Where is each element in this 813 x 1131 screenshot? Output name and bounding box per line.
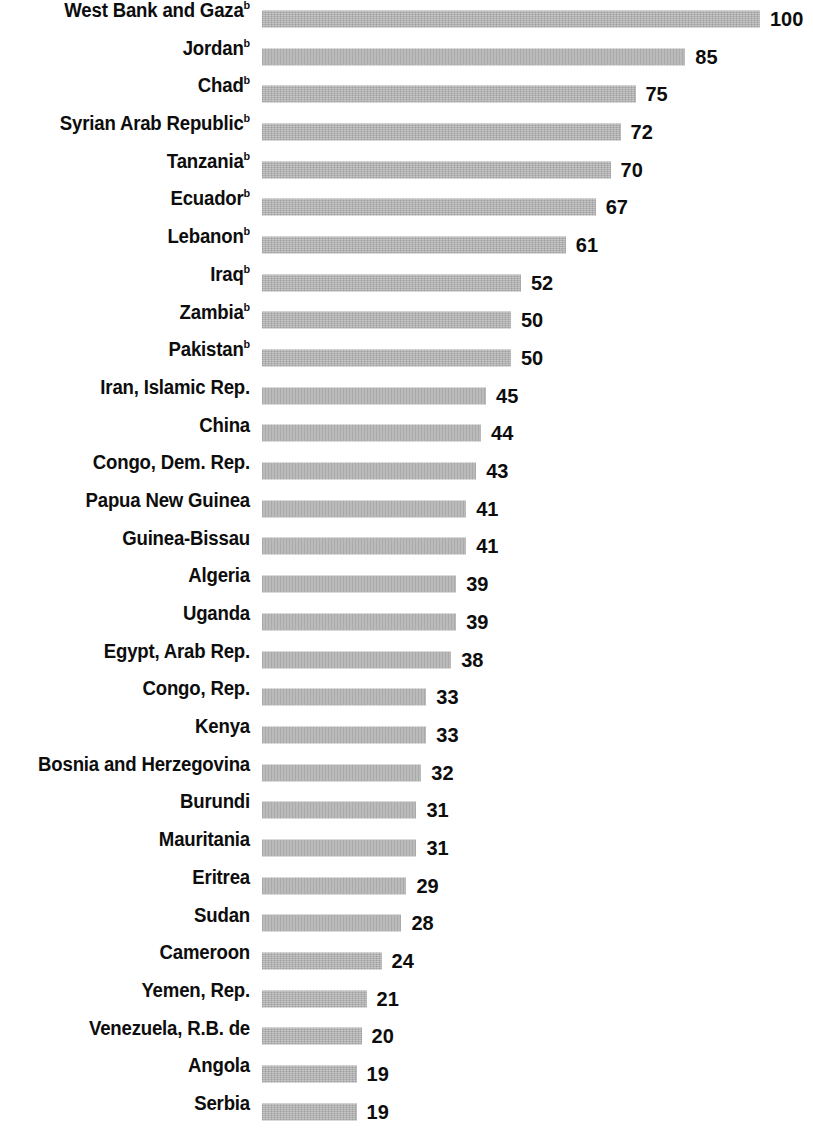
footnote-marker: b [244, 0, 250, 11]
bar-track [262, 500, 466, 517]
bar [262, 236, 566, 253]
bar-track [262, 613, 456, 630]
bar-track [262, 86, 636, 103]
bar-track [262, 990, 367, 1007]
bar-row: Serbia19 [0, 1093, 813, 1131]
bar-row: Ecuadorb67 [0, 188, 813, 226]
bar [262, 86, 636, 103]
bar-value-label: 43 [486, 461, 508, 481]
bar-value-label: 28 [411, 913, 433, 933]
bar-value-label: 33 [436, 725, 458, 745]
bar-row-label: Congo, Rep. [18, 678, 251, 698]
bar-track [262, 689, 426, 706]
bar-row-label: Eritrea [18, 867, 251, 887]
bar-row-label: Guinea-Bissau [18, 528, 251, 548]
bar [262, 48, 685, 65]
bar-row: Papua New Guinea41 [0, 490, 813, 528]
bar-row-label: Tanzaniab [18, 151, 251, 171]
bar-row: Kenya33 [0, 716, 813, 754]
bar [262, 990, 367, 1007]
bar-track [262, 1066, 357, 1083]
bar-value-label: 19 [367, 1064, 389, 1084]
bar-value-label: 50 [521, 310, 543, 330]
bar [262, 802, 416, 819]
bar-row-label: Jordanb [18, 38, 251, 58]
bar-row: Yemen, Rep.21 [0, 980, 813, 1018]
bar-value-label: 100 [770, 9, 803, 29]
bar [262, 689, 426, 706]
bar-track [262, 387, 486, 404]
bar-value-label: 67 [606, 197, 628, 217]
bar-row-label: Congo, Dem. Rep. [18, 452, 251, 472]
footnote-marker: b [244, 262, 250, 275]
bar-value-label: 70 [621, 160, 643, 180]
bar-row: Congo, Dem. Rep.43 [0, 452, 813, 490]
bar-row-label: Lebanonb [18, 226, 251, 246]
bar [262, 425, 481, 442]
bar-track [262, 915, 401, 932]
bar [262, 500, 466, 517]
bar-track [262, 350, 511, 367]
bar [262, 915, 401, 932]
bar-value-label: 32 [431, 763, 453, 783]
bar-row-label: Papua New Guinea [18, 490, 251, 510]
bar-row-label: Serbia [18, 1093, 251, 1113]
bar-value-label: 38 [461, 650, 483, 670]
bar [262, 387, 486, 404]
bar-row-label: Iraqb [18, 264, 251, 284]
bar-value-label: 33 [436, 687, 458, 707]
bar-value-label: 20 [372, 1026, 394, 1046]
bar [262, 312, 511, 329]
bar-row: Algeria39 [0, 565, 813, 603]
bar [262, 764, 421, 781]
bar [262, 651, 451, 668]
bar-row: Iran, Islamic Rep.45 [0, 377, 813, 415]
bar-value-label: 61 [576, 235, 598, 255]
bar-row-label: Algeria [18, 565, 251, 585]
bar-row-label: Bosnia and Herzegovina [18, 754, 251, 774]
bar [262, 199, 596, 216]
bar-track [262, 236, 566, 253]
bar-track [262, 651, 451, 668]
bar [262, 538, 466, 555]
bar [262, 1066, 357, 1083]
bar-row: Mauritania31 [0, 829, 813, 867]
bar-value-label: 29 [416, 876, 438, 896]
bar-track [262, 576, 456, 593]
bar-row-label: Zambiab [18, 302, 251, 322]
bar-row-label: Mauritania [18, 829, 251, 849]
bar-row-label: Ecuadorb [18, 188, 251, 208]
bar-row: Cameroon24 [0, 942, 813, 980]
bar-row: Bosnia and Herzegovina32 [0, 754, 813, 792]
bar-track [262, 425, 481, 442]
bar-track [262, 953, 382, 970]
bar-track [262, 199, 596, 216]
bar-row-label: Angola [18, 1055, 251, 1075]
bar-track [262, 274, 521, 291]
bar-value-label: 45 [496, 386, 518, 406]
bar-row-label: China [18, 415, 251, 435]
bar-row-label: Yemen, Rep. [18, 980, 251, 1000]
footnote-marker: b [244, 149, 250, 162]
bar-track [262, 877, 406, 894]
bar-row: Lebanonb61 [0, 226, 813, 264]
bar-row: Zambiab50 [0, 302, 813, 340]
bar-value-label: 24 [392, 951, 414, 971]
bar-row: West Bank and Gazab100 [0, 0, 813, 38]
bar-row-label: Burundi [18, 791, 251, 811]
bar-row: Congo, Rep.33 [0, 678, 813, 716]
footnote-marker: b [244, 300, 250, 313]
bar-track [262, 10, 760, 27]
bar [262, 613, 456, 630]
bar-value-label: 39 [466, 574, 488, 594]
bar-row: Chadb75 [0, 75, 813, 113]
bar-row: Burundi31 [0, 791, 813, 829]
bar-row-label: West Bank and Gazab [18, 0, 251, 20]
bar-value-label: 75 [646, 84, 668, 104]
bar [262, 10, 760, 27]
bar-row: Uganda39 [0, 603, 813, 641]
bar-row-label: Kenya [18, 716, 251, 736]
footnote-marker: b [244, 36, 250, 49]
bar-value-label: 31 [426, 800, 448, 820]
bar [262, 953, 382, 970]
